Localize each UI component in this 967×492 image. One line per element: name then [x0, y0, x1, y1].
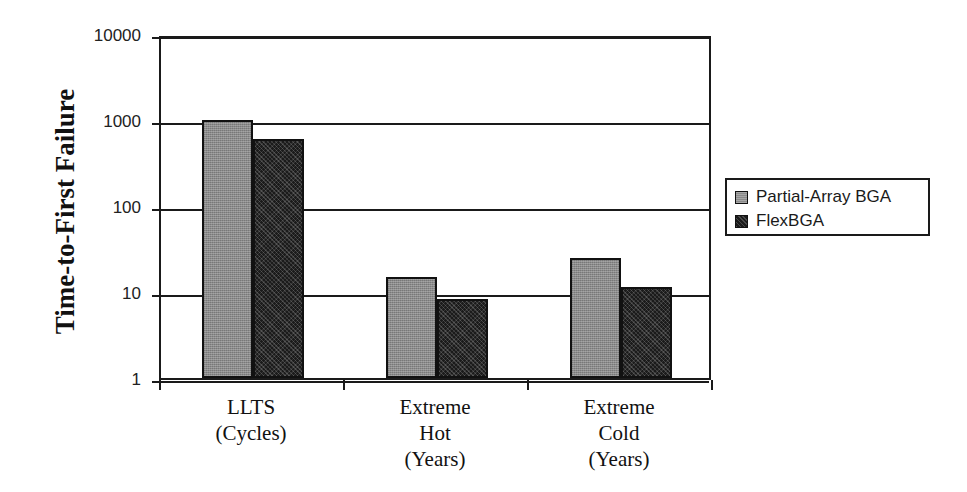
x-category-1: ExtremeHot(Years) [335, 394, 535, 472]
legend-label-0: Partial-Array BGA [756, 187, 891, 207]
legend-item-1[interactable]: FlexBGA [735, 209, 928, 233]
x-cat-label-line: Hot [335, 420, 535, 446]
y-tick-100 [152, 209, 161, 211]
gridline-1 [161, 381, 709, 383]
y-tick-label-10000: 10000 [61, 26, 141, 46]
y-tick-10 [152, 295, 161, 297]
gridline-10000 [161, 37, 709, 39]
bar-0-0[interactable] [202, 120, 253, 378]
bar-1-1[interactable] [437, 299, 488, 378]
x-category-0: LLTS(Cycles) [151, 394, 351, 446]
legend-swatch-icon-1 [735, 215, 748, 228]
legend-swatch-icon-0 [735, 191, 748, 204]
bar-0-2[interactable] [570, 258, 621, 378]
plot-area [159, 36, 711, 380]
x-tick-2 [527, 380, 529, 390]
x-cat-label-line: Extreme [335, 394, 535, 420]
chart-figure: Time-to-First Failure 100001000100101 LL… [0, 0, 967, 492]
x-cat-label-line: (Years) [335, 446, 535, 472]
bar-0-1[interactable] [386, 277, 437, 378]
y-tick-1000 [152, 123, 161, 125]
x-cat-label-line: Extreme [519, 394, 719, 420]
y-tick-10000 [152, 37, 161, 39]
y-tick-label-100: 100 [61, 198, 141, 218]
legend-label-1: FlexBGA [756, 211, 824, 231]
bar-1-0[interactable] [253, 139, 304, 378]
x-cat-label-line: Cold [519, 420, 719, 446]
y-tick-label-1: 1 [61, 370, 141, 390]
x-tick-3 [711, 380, 713, 390]
x-cat-label-line: (Years) [519, 446, 719, 472]
legend: Partial-Array BGAFlexBGA [725, 178, 930, 236]
bar-1-2[interactable] [621, 287, 672, 378]
x-cat-label-line: (Cycles) [151, 420, 351, 446]
x-tick-1 [343, 380, 345, 390]
y-tick-label-10: 10 [61, 284, 141, 304]
legend-item-0[interactable]: Partial-Array BGA [735, 185, 928, 209]
x-cat-label-line: LLTS [151, 394, 351, 420]
x-tick-0 [159, 380, 161, 390]
x-category-2: ExtremeCold(Years) [519, 394, 719, 472]
y-tick-label-1000: 1000 [61, 112, 141, 132]
